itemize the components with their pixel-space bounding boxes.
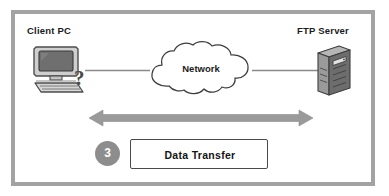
data-transfer-box: Data Transfer [130,139,268,169]
step-number-label: 3 [95,141,120,166]
data-transfer-label: Data Transfer [131,140,269,170]
network-diagram: Client PC ? Network FTP Server [0,0,389,196]
step-number-badge: 3 [95,141,120,166]
